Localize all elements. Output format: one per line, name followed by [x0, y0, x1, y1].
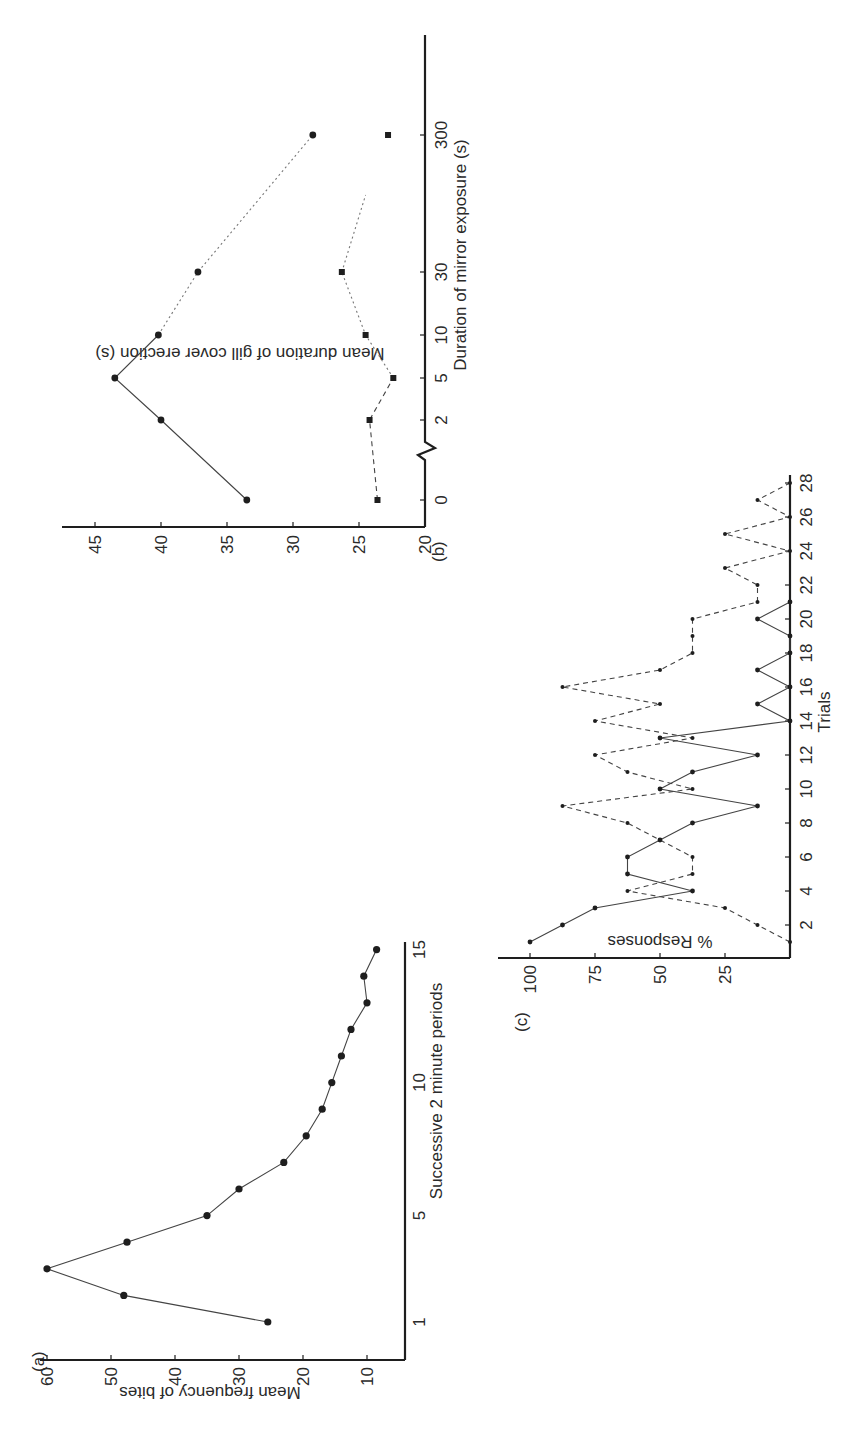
data-point-dashed: [691, 787, 695, 791]
data-point-dashed: [691, 617, 695, 621]
data-point-solid: [528, 940, 533, 945]
panel-b-x-tick-label: 300: [432, 121, 451, 149]
data-point-dashed: [788, 515, 792, 519]
data-point-dashed: [691, 634, 695, 638]
data-point: [338, 1052, 345, 1059]
panel-c-y-tick-label: 100: [521, 965, 540, 993]
data-point-solid: [593, 906, 598, 911]
panel-b-y-tick-label: 20: [416, 535, 435, 554]
panel-c-x-tick-label: 10: [797, 780, 816, 799]
data-point: [264, 1318, 271, 1325]
data-point-solid: [625, 872, 630, 877]
panel-a-y-tick-label: 50: [102, 1367, 121, 1386]
panel-c-x-tick-label: 28: [797, 474, 816, 493]
data-point-solid: [560, 923, 565, 928]
panel-c: (c) % Responses Trials 25507510024681012…: [498, 474, 834, 1032]
panel-a-xlabel: Successive 2 minute periods: [427, 983, 446, 1199]
data-point: [363, 999, 370, 1006]
data-point-dashed: [691, 651, 695, 655]
data-point-dashed: [788, 549, 792, 553]
panel-b-y-tick-label: 30: [284, 535, 303, 554]
panel-c-x-tick-label: 4: [797, 886, 816, 895]
data-point-dashed: [593, 719, 597, 723]
panel-b-y-tick-label: 40: [152, 535, 171, 554]
data-point-square: [367, 417, 373, 423]
data-point: [123, 1239, 130, 1246]
data-point-dashed: [658, 668, 662, 672]
data-point-dashed: [593, 753, 597, 757]
panel-b-ylabel: Mean duration of gill cover erection (s): [95, 344, 384, 363]
panel-b-x-tick-label: 0: [432, 495, 451, 504]
data-point-dashed: [723, 566, 727, 570]
panel-a-plot-area: [43, 946, 380, 1326]
data-point-dashed: [788, 481, 792, 485]
panel-b-y-tick-label: 35: [218, 535, 237, 554]
data-point-solid: [788, 634, 793, 639]
data-point-dashed: [691, 872, 695, 876]
panel-c-x-tick-label: 24: [797, 542, 816, 561]
data-point: [203, 1212, 210, 1219]
panel-c-label: (c): [512, 1012, 531, 1032]
data-point-dashed: [788, 940, 792, 944]
data-point-solid: [788, 600, 793, 605]
data-point-circle: [158, 417, 165, 424]
panel-c-dashed-line: [563, 483, 791, 942]
data-point-dashed: [723, 532, 727, 536]
data-point-circle: [243, 497, 250, 504]
panel-c-plot-area: [528, 481, 793, 944]
data-point: [120, 1292, 127, 1299]
panel-c-xlabel: Trials: [815, 692, 834, 733]
panel-b-squares-line-dotted-tail: [342, 195, 366, 272]
panel-a-x-tick-label: 10: [410, 1073, 429, 1092]
data-point-solid: [690, 889, 695, 894]
data-point-dashed: [626, 889, 630, 893]
data-point-solid: [755, 668, 760, 673]
panel-b-xlabel: Duration of mirror exposure (s): [451, 139, 470, 370]
panel-c-ylabel: % Responses: [608, 932, 713, 951]
panel-c-x-tick-label: 16: [797, 678, 816, 697]
panel-a: (a) Mean frequency of bites Successive 2…: [29, 940, 446, 1402]
data-point-solid: [755, 702, 760, 707]
data-point-circle: [155, 332, 162, 339]
panel-b-x-tick-label: 30: [432, 263, 451, 282]
data-point: [235, 1185, 242, 1192]
panel-b: (b) Mean duration of gill cover erection…: [62, 35, 470, 562]
panel-c-x-tick-label: 22: [797, 576, 816, 595]
data-point: [373, 946, 380, 953]
data-point-dashed: [756, 498, 760, 502]
data-point: [360, 973, 367, 980]
panel-a-series-line: [47, 950, 377, 1322]
panel-c-x-tick-label: 6: [797, 852, 816, 861]
panel-c-y-tick-label: 25: [716, 965, 735, 984]
panel-c-x-tick-label: 26: [797, 508, 816, 527]
panel-a-y-tick-label: 30: [230, 1367, 249, 1386]
data-point-square: [390, 375, 396, 381]
data-point-dashed: [658, 838, 662, 842]
data-point-circle: [111, 375, 118, 382]
data-point-square: [374, 497, 380, 503]
data-point-solid: [658, 787, 663, 792]
data-point-dashed: [756, 600, 760, 604]
panel-c-x-tick-label: 14: [797, 712, 816, 731]
panel-c-x-tick-label: 12: [797, 746, 816, 765]
data-point: [303, 1132, 310, 1139]
data-point-square: [363, 332, 369, 338]
data-point-dashed: [561, 804, 565, 808]
panel-b-circles-line-dotted: [158, 135, 312, 335]
data-point: [319, 1106, 326, 1113]
panel-b-plot-area: [111, 132, 396, 504]
data-point: [347, 1026, 354, 1033]
data-point-square: [339, 269, 345, 275]
data-point-solid: [755, 753, 760, 758]
data-point-circle: [309, 132, 316, 139]
data-point-solid: [788, 685, 793, 690]
panel-a-y-tick-label: 60: [38, 1367, 57, 1386]
data-point-dashed: [756, 923, 760, 927]
panel-a-y-tick-label: 10: [358, 1367, 377, 1386]
figure-svg: (a) Mean frequency of bites Successive 2…: [0, 0, 850, 1455]
panel-c-y-tick-label: 75: [586, 965, 605, 984]
panel-c-axes: 255075100246810121416182022242628: [498, 474, 816, 994]
data-point-solid: [788, 719, 793, 724]
panel-a-y-tick-label: 20: [294, 1367, 313, 1386]
panel-b-axes: 2025303540450251030300: [62, 35, 451, 554]
